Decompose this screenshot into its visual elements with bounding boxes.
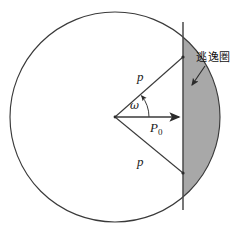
figure-canvas xyxy=(0,0,242,232)
radius-upper-line xyxy=(115,57,183,117)
radius-lower-line xyxy=(115,117,183,173)
angle-arc xyxy=(142,96,150,117)
intersection-point-upper xyxy=(181,55,184,58)
intersection-point-lower xyxy=(181,171,184,174)
center-point xyxy=(114,116,117,119)
shaded-segment xyxy=(183,0,242,232)
geometry-figure: p p P0 ω 逃逸圏 xyxy=(0,0,242,232)
